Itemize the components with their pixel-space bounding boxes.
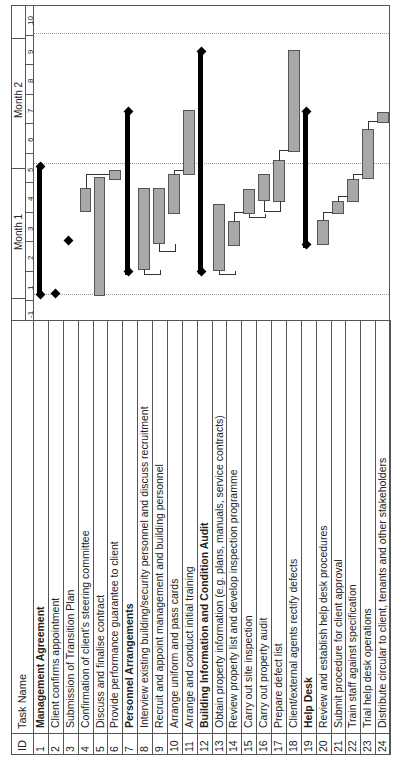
task-bar-8[interactable] [138, 188, 150, 270]
task-id: 4 [79, 746, 91, 752]
dependency-link [279, 150, 289, 161]
task-name: Recruit and appoint management and build… [153, 464, 165, 728]
summary-bar-task-1[interactable] [37, 165, 42, 295]
task-bar-14[interactable] [228, 221, 240, 246]
tick-mark [25, 212, 33, 213]
table-row[interactable]: 3Submission of Transition Plan [63, 320, 78, 755]
tick-label: 8 [26, 79, 35, 83]
tick-mark [25, 64, 33, 65]
tick-label: 7 [26, 109, 35, 113]
task-id: 3 [64, 746, 76, 752]
row-separator [390, 320, 391, 755]
task-bar-24[interactable] [377, 112, 389, 123]
table-row[interactable]: 11Arrange and conduct initial training [182, 320, 197, 755]
task-bar-20[interactable] [317, 220, 329, 245]
task-bar-17[interactable] [273, 160, 285, 202]
task-name: Arrange and conduct initial training [183, 566, 195, 728]
table-row[interactable]: 22Train staff against specification [345, 320, 360, 755]
task-id: 5 [94, 746, 106, 752]
task-name: Building Information and Condition Audit [198, 523, 210, 729]
table-row[interactable]: 18Client/external agents rectify defects [286, 320, 301, 755]
tick-mark [25, 241, 33, 242]
task-bar-6[interactable] [109, 170, 121, 180]
task-name: Train staff against specification [346, 584, 358, 728]
task-id: 13 [213, 740, 225, 752]
month-separator [11, 38, 25, 39]
task-name: Help Desk [302, 677, 314, 728]
table-row[interactable]: 10Arrange uniform and pass cards [167, 320, 182, 755]
tick-mark [25, 300, 33, 301]
task-id: 6 [108, 746, 120, 752]
task-bar-13[interactable] [213, 204, 225, 271]
tick-label: 2 [26, 256, 35, 260]
task-name: Trial help desk operations [361, 608, 373, 728]
table-row[interactable]: 19Help Desk [301, 320, 316, 755]
summary-bar-task-19[interactable] [303, 110, 308, 248]
dependency-link [234, 212, 244, 222]
task-bar-23[interactable] [362, 129, 374, 179]
table-row[interactable]: 15Carry out site inspection [241, 320, 256, 755]
month-2-label: Month 2 [13, 82, 24, 118]
task-id: 10 [168, 740, 180, 752]
task-bar-9[interactable] [153, 188, 165, 244]
task-id: 14 [227, 740, 239, 752]
tick-label: 3 [26, 227, 35, 231]
table-row[interactable]: 14Review property list and develop inspe… [226, 320, 241, 755]
task-name: Management Agreement [34, 606, 46, 728]
task-name: Prepare defect list [272, 643, 284, 728]
task-bar-22[interactable] [347, 179, 359, 202]
gridline [34, 33, 389, 34]
table-row[interactable]: 13Obtain property information (e.g. plan… [212, 320, 227, 755]
task-name: Obtain property information (e.g. plans,… [213, 415, 225, 728]
table-row[interactable]: 2Client confirms appointment [48, 320, 63, 755]
table-row[interactable]: 1Management Agreement [33, 320, 48, 755]
tick-label: 5 [26, 168, 35, 172]
table-row[interactable]: 16Carry out property audit [256, 320, 271, 755]
task-id: 2 [49, 746, 61, 752]
table-row[interactable]: 4Confirmation of client's steering commi… [78, 320, 93, 755]
task-name: Submission of Transition Plan [64, 590, 76, 728]
table-row[interactable]: 23Trial help desk operations [360, 320, 375, 755]
table-row[interactable]: 17Prepare defect list [271, 320, 286, 755]
table-row[interactable]: 8Interview existing building/security pe… [137, 320, 152, 755]
table-row[interactable]: 21Submit procedure for client approval [331, 320, 346, 755]
table-row[interactable]: 5Discuss and finalise contract [93, 320, 108, 755]
dependency-link [353, 174, 363, 180]
table-row[interactable]: 12Building Information and Condition Aud… [197, 320, 212, 755]
task-bar-21[interactable] [332, 201, 344, 214]
dependency-link [368, 121, 378, 130]
task-bar-10[interactable] [168, 174, 180, 214]
task-name: Review property list and develop inspect… [227, 469, 239, 728]
dependency-link [86, 174, 105, 189]
task-id: 1 [34, 746, 46, 752]
tick-mark [25, 123, 33, 124]
task-bar-11[interactable] [183, 110, 195, 175]
task-bar-4[interactable] [80, 188, 91, 212]
task-id: 8 [138, 746, 150, 752]
task-bar-15[interactable] [243, 189, 255, 214]
table-row[interactable]: 9Recruit and appoint management and buil… [152, 320, 167, 755]
dependency-link [323, 212, 333, 221]
tick-mark [25, 182, 33, 183]
task-bar-5[interactable] [94, 177, 105, 296]
table-row[interactable]: 6Provide performance guarantee to client [107, 320, 122, 755]
month-1-label: Month 1 [13, 214, 24, 250]
month-separator [11, 168, 25, 169]
summary-bar-task-12[interactable] [198, 50, 203, 274]
task-id: 16 [257, 740, 269, 752]
dependency-link [144, 270, 161, 275]
dependency-link [174, 170, 184, 175]
gridline [34, 294, 389, 295]
task-name: Discuss and finalise contract [94, 595, 106, 728]
table-row[interactable]: 7Personnel Arrangements [122, 320, 137, 755]
task-id: 24 [376, 740, 388, 752]
task-name: Arrange uniform and pass cards [168, 579, 180, 728]
task-bar-16[interactable] [258, 174, 270, 201]
table-row[interactable]: 24Distribute circular to client, tenants… [375, 320, 390, 755]
task-bar-18[interactable] [288, 50, 300, 152]
task-id: 9 [153, 746, 165, 752]
tick-label: 9 [26, 50, 35, 54]
task-name: Provide performance guarantee to client [108, 541, 120, 728]
summary-bar-task-7[interactable] [125, 110, 130, 275]
table-row[interactable]: 20Review and establish help desk procedu… [316, 320, 331, 755]
